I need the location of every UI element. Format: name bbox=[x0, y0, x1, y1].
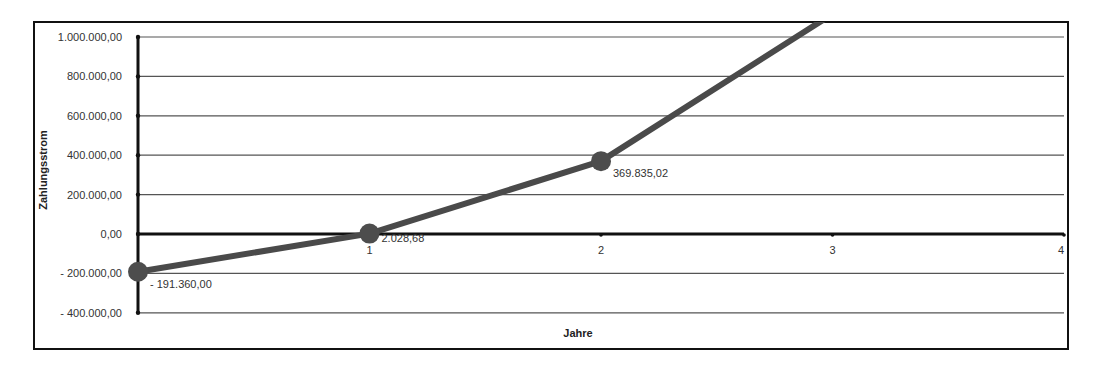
y-tick-label: - 200.000,00 bbox=[60, 267, 122, 279]
data-label: 369.835,02 bbox=[613, 167, 668, 179]
x-tick-label: 1 bbox=[366, 244, 372, 256]
x-tick-label: 4 bbox=[1058, 244, 1064, 256]
line-chart: 1.000.000,00800.000,00600.000,00400.000,… bbox=[0, 0, 1098, 371]
y-axis-title: Zahlungsstrom bbox=[37, 130, 49, 210]
y-tick-label: 400.000,00 bbox=[67, 149, 122, 161]
y-tick-label: - 400.000,00 bbox=[60, 307, 122, 319]
x-tick-label: 3 bbox=[829, 244, 835, 256]
gridlines bbox=[138, 37, 1064, 313]
y-tick-label: 1.000.000,00 bbox=[58, 31, 122, 43]
data-label: 2.028,68 bbox=[382, 232, 425, 244]
data-point-marker bbox=[128, 262, 148, 282]
x-axis-ticks: 1234 bbox=[366, 244, 1064, 256]
data-point-marker bbox=[360, 224, 380, 244]
y-axis-ticks: 1.000.000,00800.000,00600.000,00400.000,… bbox=[58, 31, 122, 319]
x-tick-label: 2 bbox=[598, 244, 604, 256]
y-tick-label: 800.000,00 bbox=[67, 70, 122, 82]
y-tick-label: 0,00 bbox=[101, 228, 122, 240]
data-labels: - 191.360,002.028,68369.835,02 bbox=[150, 167, 668, 290]
x-axis-title: Jahre bbox=[563, 327, 592, 339]
y-tick-label: 600.000,00 bbox=[67, 110, 122, 122]
data-series bbox=[128, 14, 833, 282]
data-label: - 191.360,00 bbox=[150, 278, 212, 290]
data-point-marker bbox=[591, 151, 611, 171]
y-tick-label: 200.000,00 bbox=[67, 189, 122, 201]
